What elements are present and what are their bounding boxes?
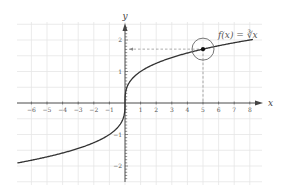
x-tick-label: −4 bbox=[58, 106, 67, 113]
x-tick-label: −1 bbox=[105, 106, 114, 113]
x-tick-label: 3 bbox=[170, 106, 174, 113]
function-label: f(x) = ∛x bbox=[217, 29, 258, 40]
highlight-point bbox=[201, 47, 205, 51]
function-curve bbox=[17, 39, 253, 162]
x-axis-label: x bbox=[268, 98, 273, 108]
x-tick-label: −2 bbox=[89, 106, 98, 113]
x-tick-label: −5 bbox=[43, 106, 52, 113]
x-tick-label: −3 bbox=[74, 106, 83, 113]
x-tick-label: −6 bbox=[27, 106, 36, 113]
grid bbox=[17, 22, 262, 185]
x-axis-arrow-icon bbox=[255, 101, 263, 106]
guide-arrow-icon bbox=[129, 48, 133, 51]
x-tick-label: 1 bbox=[139, 106, 143, 113]
x-tick-label: 7 bbox=[232, 106, 236, 113]
x-tick-label: 4 bbox=[185, 106, 189, 113]
x-tick-label: 6 bbox=[217, 106, 221, 113]
y-tick-label: 1 bbox=[118, 68, 122, 75]
chart-canvas: xy−6−5−4−3−2−112345678−2−112f(x) = ∛x bbox=[0, 0, 286, 191]
y-tick-label: −2 bbox=[113, 162, 122, 169]
y-tick-label: 2 bbox=[118, 36, 122, 43]
y-axis-label: y bbox=[122, 11, 129, 21]
y-tick-label: −1 bbox=[113, 131, 122, 138]
x-tick-label: 8 bbox=[248, 106, 252, 113]
x-tick-label: 2 bbox=[154, 106, 158, 113]
x-tick-label: 5 bbox=[201, 106, 205, 113]
